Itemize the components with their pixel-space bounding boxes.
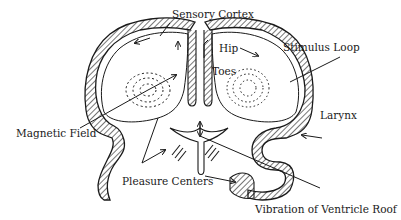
label-stimulus-loop: Stimulus Loop — [283, 42, 360, 53]
label-hip: Hip — [219, 43, 238, 54]
label-magnetic-field: Magnetic Field — [16, 128, 96, 139]
label-toes: Toes — [212, 66, 236, 77]
left-hemisphere — [85, 18, 196, 200]
ventricle — [170, 122, 228, 175]
label-sensory-cortex: Sensory Cortex — [172, 9, 254, 20]
label-pleasure-centers: Pleasure Centers — [122, 176, 213, 187]
label-larynx: Larynx — [320, 110, 357, 121]
label-vibration-of-ventricle-roof: Vibration of Ventricle Roof — [255, 204, 397, 215]
pleasure-center-marks — [172, 145, 219, 161]
